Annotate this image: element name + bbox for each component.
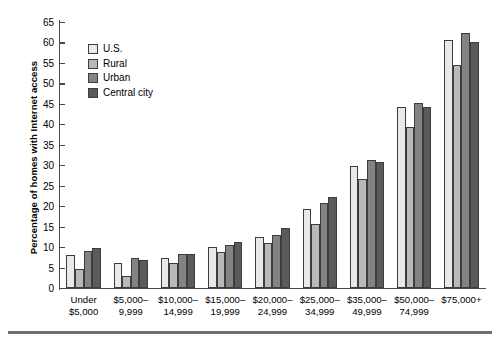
bar <box>320 203 329 288</box>
bar-group <box>296 22 343 288</box>
y-tick-label: 55 <box>28 59 54 69</box>
bar <box>66 255 75 288</box>
bar <box>272 235 281 288</box>
legend-item: Central city <box>88 86 153 100</box>
legend-item: Urban <box>88 71 153 85</box>
legend-swatch-icon <box>88 73 98 83</box>
bar <box>264 243 273 288</box>
bar <box>225 245 234 288</box>
chart-figure: Percentage of homes with Internet access… <box>0 0 500 343</box>
chart-legend: U.S.RuralUrbanCentral city <box>88 42 153 100</box>
x-tick-label-line1: $75,000+ <box>441 294 481 305</box>
bar <box>350 166 359 288</box>
y-tick-label: 30 <box>28 161 54 171</box>
bar <box>122 276 131 288</box>
x-tick-label-line2: 74,999 <box>385 306 444 318</box>
y-tick-label: 25 <box>28 182 54 192</box>
x-tick-label-line1: $20,000– <box>252 294 292 305</box>
bar <box>303 209 312 288</box>
y-tick-label: 35 <box>28 141 54 151</box>
x-tick-label: $75,000+ <box>432 294 491 306</box>
legend-swatch-icon <box>88 44 98 54</box>
bar-group <box>202 22 249 288</box>
y-tick-label: 45 <box>28 100 54 110</box>
bar <box>358 179 367 288</box>
y-tick-label: 50 <box>28 79 54 89</box>
bar <box>328 197 337 288</box>
bar <box>169 263 178 288</box>
bar <box>376 162 385 288</box>
bar <box>406 127 415 288</box>
y-tick-label: 40 <box>28 120 54 130</box>
bar <box>397 107 406 288</box>
bar <box>114 263 123 288</box>
legend-label: Central city <box>103 88 153 98</box>
bar <box>139 260 148 288</box>
bar <box>311 224 320 288</box>
bar-group <box>343 22 390 288</box>
bar <box>217 252 226 288</box>
y-tick-label: 10 <box>28 243 54 253</box>
bar <box>281 228 290 288</box>
x-tick-label-line1: $15,000– <box>205 294 245 305</box>
bar <box>255 237 264 288</box>
legend-swatch-icon <box>88 88 98 98</box>
bar <box>444 40 453 288</box>
bar <box>187 254 196 288</box>
bar <box>92 248 101 289</box>
legend-label: Rural <box>103 59 127 69</box>
y-tick-label: 60 <box>28 38 54 48</box>
legend-item: Rural <box>88 57 153 71</box>
bar <box>470 42 479 288</box>
bar <box>423 107 432 288</box>
bar <box>453 65 462 288</box>
y-tick-label: 20 <box>28 202 54 212</box>
bar <box>461 33 470 288</box>
bar <box>75 269 84 288</box>
x-tick-label-line1: Under <box>71 294 97 305</box>
y-tick-label: 15 <box>28 223 54 233</box>
bar-group <box>249 22 296 288</box>
bar-group <box>391 22 438 288</box>
legend-item: U.S. <box>88 42 153 56</box>
bar <box>178 254 187 288</box>
legend-label: Urban <box>103 73 130 83</box>
x-tick-label-line1: $10,000– <box>158 294 198 305</box>
bar <box>414 103 423 288</box>
bar-group <box>154 22 201 288</box>
x-tick-label-line1: $25,000– <box>300 294 340 305</box>
y-tick-label: 0 <box>28 284 54 294</box>
bar <box>161 258 170 288</box>
legend-swatch-icon <box>88 59 98 69</box>
bar <box>234 242 243 288</box>
bar-group <box>438 22 485 288</box>
y-tick-label: 5 <box>28 264 54 274</box>
y-tick-mark <box>60 288 65 289</box>
bar <box>367 160 376 288</box>
bar <box>208 247 217 288</box>
bar <box>131 258 140 288</box>
bar <box>84 251 93 288</box>
x-axis-line <box>59 288 486 289</box>
y-tick-label: 65 <box>28 18 54 28</box>
legend-label: U.S. <box>103 44 122 54</box>
x-tick-label-line1: $5,000– <box>113 294 148 305</box>
x-tick-label-line1: $50,000– <box>394 294 434 305</box>
bottom-divider <box>8 331 492 334</box>
x-tick-label-line1: $35,000– <box>347 294 387 305</box>
